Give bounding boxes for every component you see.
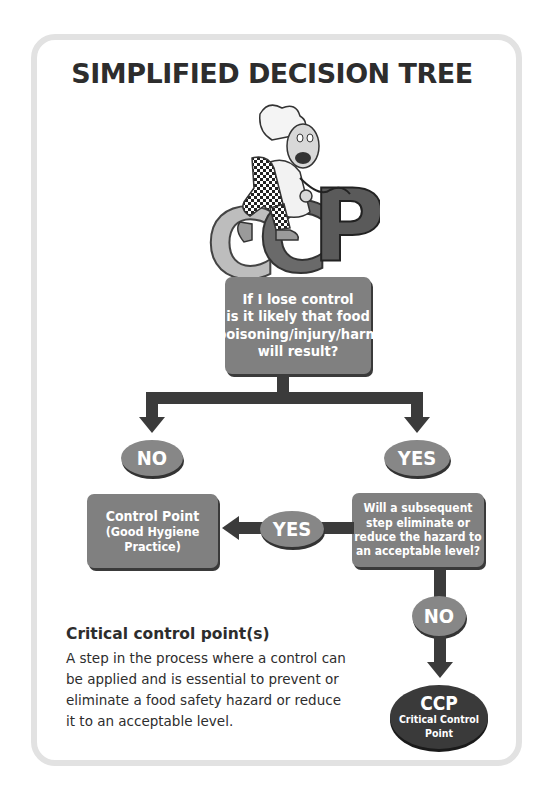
arrow-down-ccp-icon: [427, 662, 453, 678]
arrow-left-icon: [222, 516, 239, 540]
diagram-title: SIMPLIFIED DECISION TREE: [0, 58, 544, 89]
arrow-down-left-icon: [139, 417, 165, 433]
question-2-line: an acceptable level?: [356, 544, 480, 558]
branch-no-2-oval: NO: [412, 596, 466, 636]
question-box-loss-of-control: If I lose control is it likely that food…: [225, 277, 371, 374]
control-point-line: Practice): [124, 539, 181, 554]
question-2-line: step eliminate or: [366, 516, 470, 530]
connector-horizontal: [146, 392, 423, 404]
question-2-line: Will a subsequent: [364, 501, 473, 515]
branch-yes-oval: YES: [384, 440, 450, 476]
chef-mascot-icon: C C P: [200, 100, 380, 280]
question-1-line: is it likely that food: [226, 308, 370, 325]
branch-no-oval: NO: [121, 440, 183, 476]
question-box-subsequent-step: Will a subsequent step eliminate or redu…: [352, 493, 484, 567]
control-point-line: Control Point: [106, 508, 200, 525]
question-1-line: If I lose control: [242, 291, 353, 308]
svg-text:P: P: [312, 167, 380, 280]
definition-line: it to an acceptable level.: [66, 711, 386, 732]
definition-line: A step in the process where a control ca…: [66, 648, 386, 669]
ccp-result-oval: CCP Critical Control Point: [390, 685, 488, 749]
definition-line: be applied and is essential to prevent o…: [66, 669, 386, 690]
question-1-line: will result?: [258, 343, 339, 360]
definition-body: A step in the process where a control ca…: [66, 648, 386, 732]
ccp-label-line: Critical Control: [399, 713, 479, 726]
branch-yes-2-oval: YES: [260, 511, 324, 547]
control-point-line: (Good Hygiene: [106, 524, 200, 539]
ccp-label-line: Point: [425, 727, 453, 740]
connector-left-shaft: [146, 392, 158, 418]
question-2-line: reduce the hazard to: [354, 530, 481, 544]
ccp-abbr: CCP: [420, 694, 458, 713]
definition-line: eliminate a food safety hazard or reduce: [66, 690, 386, 711]
connector-no-bottom: [434, 636, 446, 664]
connector-right-shaft: [411, 392, 423, 418]
control-point-box: Control Point (Good Hygiene Practice): [87, 494, 218, 568]
arrow-down-right-icon: [404, 417, 430, 433]
definition-heading: Critical control point(s): [66, 625, 270, 643]
question-1-line: poisoning/injury/harm: [217, 326, 379, 343]
connector-no-top: [434, 567, 446, 599]
